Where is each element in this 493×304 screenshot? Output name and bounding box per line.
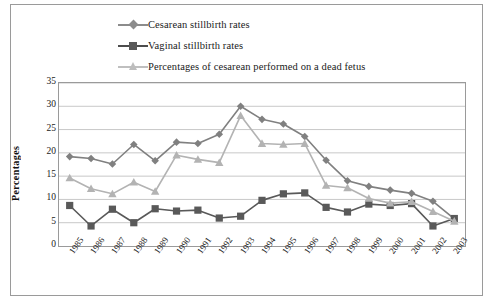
data-point-marker (258, 116, 266, 124)
data-point-marker (87, 185, 95, 193)
data-point-marker (237, 213, 244, 220)
y-tick-label: 30 (34, 99, 56, 109)
data-point-marker (194, 140, 202, 148)
data-point-marker (87, 222, 94, 229)
chart-figure: Cesarean stillbirth rates Vaginal stillb… (0, 0, 493, 304)
data-series (66, 189, 458, 229)
y-tick-label: 0 (34, 239, 56, 249)
data-point-marker (429, 222, 436, 229)
data-point-marker (280, 190, 287, 197)
data-point-marker (408, 190, 416, 198)
legend-label-cesarean: Cesarean stillbirth rates (148, 19, 250, 30)
y-tick-label: 5 (34, 216, 56, 226)
data-point-marker (280, 120, 288, 128)
data-point-marker (429, 207, 437, 215)
data-point-marker (173, 207, 180, 214)
data-point-marker (323, 204, 330, 211)
y-tick-label: 25 (34, 123, 56, 133)
data-point-marker (365, 194, 373, 202)
data-point-marker (258, 197, 265, 204)
data-point-marker (152, 205, 159, 212)
legend-item-percentages-dead-fetus: Percentages of cesarean performed on a d… (118, 56, 448, 77)
triangle-marker-icon (118, 60, 148, 74)
y-tick-label: 20 (34, 146, 56, 156)
data-point-marker (216, 214, 223, 221)
legend-item-vaginal-stillbirth-rates: Vaginal stillbirth rates (118, 35, 448, 56)
diamond-marker-icon (118, 18, 148, 32)
data-point-marker (66, 153, 74, 161)
data-point-marker (109, 206, 116, 213)
legend-item-cesarean-stillbirth-rates: Cesarean stillbirth rates (118, 14, 448, 35)
data-series (65, 111, 458, 224)
plot-area (58, 82, 466, 247)
y-tick-label: 15 (34, 169, 56, 179)
square-marker-icon (118, 39, 148, 53)
data-point-marker (365, 183, 373, 191)
y-tick-label: 35 (34, 76, 56, 86)
chart-legend: Cesarean stillbirth rates Vaginal stillb… (118, 14, 448, 77)
data-point-marker (65, 174, 73, 182)
data-point-marker (194, 207, 201, 214)
x-axis-tick-labels: 1985198619871988198919901991199219931994… (58, 246, 464, 302)
data-point-marker (130, 219, 137, 226)
legend-label-vaginal: Vaginal stillbirth rates (148, 40, 243, 51)
data-point-marker (87, 155, 95, 163)
y-tick-label: 10 (34, 192, 56, 202)
data-point-marker (172, 151, 180, 159)
data-point-marker (130, 178, 138, 186)
y-axis-tick-labels: 35302520151050 (30, 0, 56, 304)
y-axis-title: Percentages (10, 118, 26, 228)
data-point-marker (66, 202, 73, 209)
series-canvas (59, 83, 465, 246)
data-point-marker (236, 111, 244, 119)
data-point-marker (301, 189, 308, 196)
legend-label-dead-fetus: Percentages of cesarean performed on a d… (148, 61, 365, 72)
data-point-marker (386, 186, 394, 194)
data-point-marker (344, 208, 351, 215)
